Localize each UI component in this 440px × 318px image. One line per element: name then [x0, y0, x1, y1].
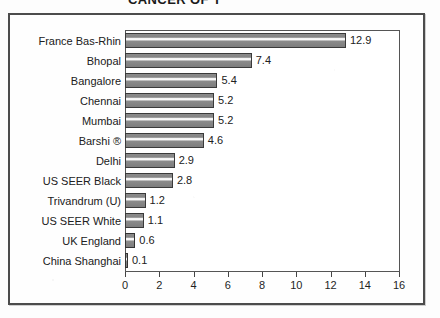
- x-axis-tick-label: 8: [259, 279, 265, 291]
- bar-row: 1.1: [125, 211, 399, 231]
- bar-row: 5.2: [125, 111, 399, 131]
- bar-value-label: 2.8: [177, 172, 192, 188]
- bar-row: 1.2: [125, 191, 399, 211]
- bar-row: 2.9: [125, 151, 399, 171]
- bar: [125, 53, 252, 68]
- x-axis-tick: [194, 272, 195, 277]
- bar-value-label: 0.6: [139, 232, 154, 248]
- bar-value-label: 1.1: [148, 212, 163, 228]
- bar-value-label: 4.6: [208, 132, 223, 148]
- y-axis-label: US SEER Black: [43, 171, 121, 191]
- bar: [125, 93, 214, 108]
- y-axis-label: China Shanghai: [43, 251, 121, 271]
- x-axis-tick-label: 12: [324, 279, 336, 291]
- chart-title-cropped: CANCER OF T: [128, 0, 312, 6]
- x-axis-tick-label: 6: [225, 279, 231, 291]
- y-axis-label: Delhi: [96, 151, 121, 171]
- bar-row: 5.4: [125, 71, 399, 91]
- x-axis-tick: [262, 272, 263, 277]
- bar-row: 2.8: [125, 171, 399, 191]
- chart-title-text: CANCER OF T: [128, 0, 312, 6]
- bar-row: 4.6: [125, 131, 399, 151]
- x-axis-tick-label: 16: [393, 279, 405, 291]
- x-axis-tick-label: 14: [359, 279, 371, 291]
- y-axis-category-labels: France Bas-RhinBhopalBangaloreChennaiMum…: [8, 31, 121, 271]
- x-axis-tick-label: 10: [290, 279, 302, 291]
- bar-value-label: 1.2: [150, 192, 165, 208]
- bar: [125, 213, 144, 228]
- x-axis-tick-label: 2: [156, 279, 162, 291]
- x-axis-tick-label: 0: [122, 279, 128, 291]
- x-axis-tick: [331, 272, 332, 277]
- chart-page: CANCER OF T France Bas-RhinBhopalBangalo…: [0, 0, 440, 318]
- bar: [125, 33, 346, 48]
- bar: [125, 133, 204, 148]
- x-axis-tick-label: 4: [190, 279, 196, 291]
- bar-row: 7.4: [125, 51, 399, 71]
- bar-value-label: 0.1: [132, 252, 147, 268]
- bar: [125, 193, 146, 208]
- y-axis-label: US SEER White: [42, 211, 121, 231]
- bar-value-label: 5.4: [221, 72, 236, 88]
- bar-row: 0.6: [125, 231, 399, 251]
- bar-value-label: 2.9: [179, 152, 194, 168]
- x-axis-tick: [365, 272, 366, 277]
- y-axis-label: France Bas-Rhin: [38, 31, 121, 51]
- bar: [125, 153, 175, 168]
- bar-value-label: 5.2: [218, 92, 233, 108]
- bar: [125, 173, 173, 188]
- x-axis-tick: [296, 272, 297, 277]
- y-axis-label: Barshi ®: [79, 131, 121, 151]
- bar-row: 12.9: [125, 31, 399, 51]
- bar-value-label: 7.4: [256, 52, 271, 68]
- bar: [125, 73, 217, 88]
- bar-value-label: 5.2: [218, 112, 233, 128]
- y-axis-label: Trivandrum (U): [47, 191, 121, 211]
- bar-row: 5.2: [125, 91, 399, 111]
- bar: [125, 113, 214, 128]
- y-axis-label: Bhopal: [87, 51, 121, 71]
- x-axis-tick: [159, 272, 160, 277]
- y-axis-label: Chennai: [80, 91, 121, 111]
- x-axis: 0246810121416: [125, 272, 400, 302]
- y-axis-label: UK England: [62, 231, 121, 251]
- bar-value-label: 12.9: [350, 32, 371, 48]
- bar: [125, 233, 135, 248]
- x-axis-tick: [228, 272, 229, 277]
- x-axis-tick: [125, 272, 126, 277]
- bar: [125, 253, 128, 268]
- y-axis-label: Bangalore: [71, 71, 121, 91]
- x-axis-tick: [399, 272, 400, 277]
- y-axis-label: Mumbai: [82, 111, 121, 131]
- bar-series: 12.97.45.45.25.24.62.92.81.21.10.60.1: [125, 31, 399, 271]
- bar-row: 0.1: [125, 251, 399, 271]
